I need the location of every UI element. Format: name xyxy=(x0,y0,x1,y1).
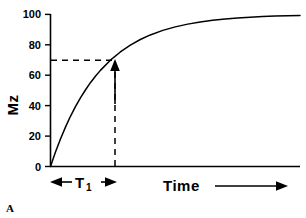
t1-label-symbol: T xyxy=(75,174,84,191)
x-axis-title-group: Time xyxy=(163,177,288,194)
y-axis-title: Mz xyxy=(4,95,21,116)
y-axis-tick-labels: 0 20 40 60 80 100 xyxy=(23,8,41,172)
t1-guides-group xyxy=(51,60,115,166)
y-axis-ticks xyxy=(45,14,51,166)
y-tick-label-60: 60 xyxy=(29,69,41,81)
left-arrow-icon xyxy=(50,177,62,187)
time-arrow-icon xyxy=(276,181,288,191)
axes-group xyxy=(51,14,301,167)
y-tick-label-20: 20 xyxy=(29,130,41,142)
t1-up-arrow xyxy=(110,59,120,104)
relaxation-curve-chart: 0 20 40 60 80 100 Mz T 1 xyxy=(0,0,306,218)
y-tick-label-0: 0 xyxy=(35,161,41,173)
y-tick-label-40: 40 xyxy=(29,100,41,112)
y-tick-label-100: 100 xyxy=(23,8,41,20)
right-arrow-icon xyxy=(105,177,117,187)
x-axis-title: Time xyxy=(163,177,200,194)
figure-panel: 0 20 40 60 80 100 Mz T 1 xyxy=(0,0,306,218)
t1-span-arrow-group: T 1 xyxy=(50,174,117,193)
recovery-curve-path xyxy=(51,15,301,166)
panel-label: A xyxy=(6,202,14,214)
y-tick-label-80: 80 xyxy=(29,39,41,51)
t1-label-subscript: 1 xyxy=(86,182,92,193)
